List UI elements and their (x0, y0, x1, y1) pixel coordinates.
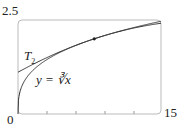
chart: 2.5 0 15 T2 y = ∛x (0, 0, 185, 135)
y-max-label: 2.5 (2, 3, 18, 19)
cube-root-curve (18, 21, 161, 114)
plot (0, 0, 185, 135)
frame (18, 20, 161, 114)
t2-label: T2 (24, 48, 35, 66)
tangent-point (93, 37, 96, 40)
x-max-label: 15 (164, 105, 177, 121)
x-min-label: 0 (7, 112, 14, 128)
curve-label: y = ∛x (36, 72, 71, 88)
